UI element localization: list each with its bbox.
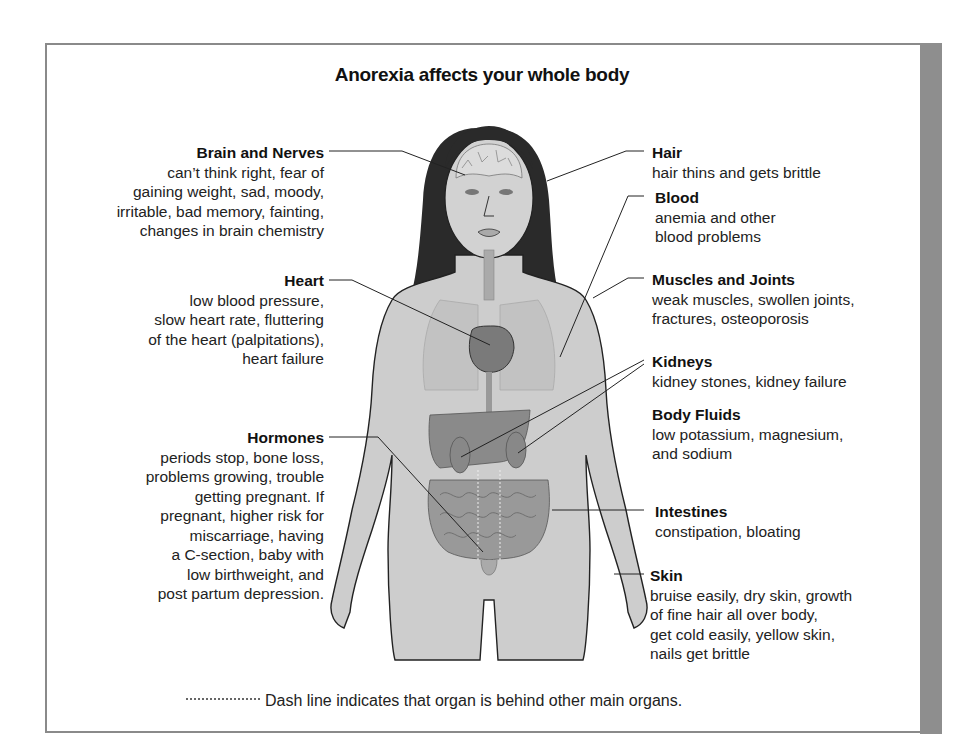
intestines-illustration bbox=[428, 480, 549, 560]
label-line: anemia and other bbox=[655, 208, 776, 228]
label-heading: Intestines bbox=[655, 502, 801, 522]
label-line: gaining weight, sad, moody, bbox=[117, 182, 324, 202]
label-heading: Body Fluids bbox=[652, 405, 843, 425]
label-line: blood problems bbox=[655, 227, 776, 247]
legend-text: Dash line indicates that organ is behind… bbox=[265, 692, 682, 709]
label-line: a C-section, baby with bbox=[146, 545, 324, 565]
label-heading: Heart bbox=[148, 271, 324, 291]
label-line: get cold easily, yellow skin, bbox=[650, 625, 852, 645]
label-line: changes in brain chemistry bbox=[117, 221, 324, 241]
label-blood: Blood anemia and other blood problems bbox=[655, 188, 776, 247]
label-line: low potassium, magnesium, bbox=[652, 425, 843, 445]
label-line: nails get brittle bbox=[650, 644, 852, 664]
label-line: fractures, osteoporosis bbox=[652, 309, 854, 329]
label-hair: Hair hair thins and gets brittle bbox=[652, 143, 821, 182]
label-line: slow heart rate, fluttering bbox=[148, 310, 324, 330]
label-line: low blood pressure, bbox=[148, 291, 324, 311]
label-line: getting pregnant. If bbox=[146, 487, 324, 507]
label-line: bruise easily, dry skin, growth bbox=[650, 586, 852, 606]
label-line: low birthweight, and bbox=[146, 565, 324, 585]
label-line: miscarriage, having bbox=[146, 526, 324, 546]
label-kidneys: Kidneys kidney stones, kidney failure bbox=[652, 352, 847, 391]
label-line: weak muscles, swollen joints, bbox=[652, 290, 854, 310]
label-line: can’t think right, fear of bbox=[117, 163, 324, 183]
label-line: kidney stones, kidney failure bbox=[652, 372, 847, 392]
legend: Dash line indicates that organ is behind… bbox=[186, 692, 682, 710]
label-line: of the heart (palpitations), bbox=[148, 330, 324, 350]
label-line: hair thins and gets brittle bbox=[652, 163, 821, 183]
label-heading: Kidneys bbox=[652, 352, 847, 372]
label-heading: Hormones bbox=[146, 428, 324, 448]
label-line: problems growing, trouble bbox=[146, 467, 324, 487]
label-hormones: Hormones periods stop, bone loss, proble… bbox=[146, 428, 324, 604]
kidney-left bbox=[450, 437, 470, 473]
label-line: periods stop, bone loss, bbox=[146, 448, 324, 468]
label-line: and sodium bbox=[652, 444, 843, 464]
label-heading: Brain and Nerves bbox=[117, 143, 324, 163]
label-intestines: Intestines constipation, bloating bbox=[655, 502, 801, 541]
label-heading: Skin bbox=[650, 566, 852, 586]
leader-hair bbox=[547, 151, 644, 181]
label-skin: Skin bruise easily, dry skin, growth of … bbox=[650, 566, 852, 664]
label-line: of fine hair all over body, bbox=[650, 605, 852, 625]
label-brain-and-nerves: Brain and Nerves can’t think right, fear… bbox=[117, 143, 324, 241]
dotted-line-icon bbox=[186, 698, 260, 700]
label-heading: Blood bbox=[655, 188, 776, 208]
label-heading: Muscles and Joints bbox=[652, 270, 854, 290]
leader-muscles bbox=[593, 278, 644, 298]
label-line: post partum depression. bbox=[146, 584, 324, 604]
label-line: irritable, bad memory, fainting, bbox=[117, 202, 324, 222]
label-line: heart failure bbox=[148, 349, 324, 369]
label-body-fluids: Body Fluids low potassium, magnesium, an… bbox=[652, 405, 843, 464]
label-heading: Hair bbox=[652, 143, 821, 163]
label-heart: Heart low blood pressure, slow heart rat… bbox=[148, 271, 324, 369]
heart-illustration bbox=[469, 326, 514, 372]
label-muscles-and-joints: Muscles and Joints weak muscles, swollen… bbox=[652, 270, 854, 329]
label-line: constipation, bloating bbox=[655, 522, 801, 542]
label-line: pregnant, higher risk for bbox=[146, 506, 324, 526]
